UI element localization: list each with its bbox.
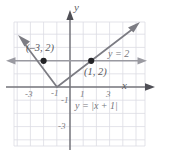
point-label-left: (–3, 2)	[26, 43, 54, 54]
x-tick-minus-1: -1	[51, 89, 59, 98]
graph-figure: x y -3 -1 1 3 -1 -3 (–3, 2) (1, 2) y = 2…	[0, 0, 172, 151]
y-tick-minus-1: -1	[61, 96, 69, 105]
x-tick-3: 3	[106, 90, 111, 99]
x-tick-1: 1	[80, 90, 85, 99]
y-tick-minus-3: -3	[58, 122, 66, 131]
curve-equation-label: y = |x + 1|	[75, 101, 118, 111]
x-axis-label: x	[122, 80, 127, 91]
y-axis-label: y	[74, 2, 79, 13]
x-tick-minus-3: -3	[25, 90, 33, 99]
line-equation-label: y = 2	[108, 49, 129, 59]
point-label-right: (1, 2)	[84, 67, 107, 78]
